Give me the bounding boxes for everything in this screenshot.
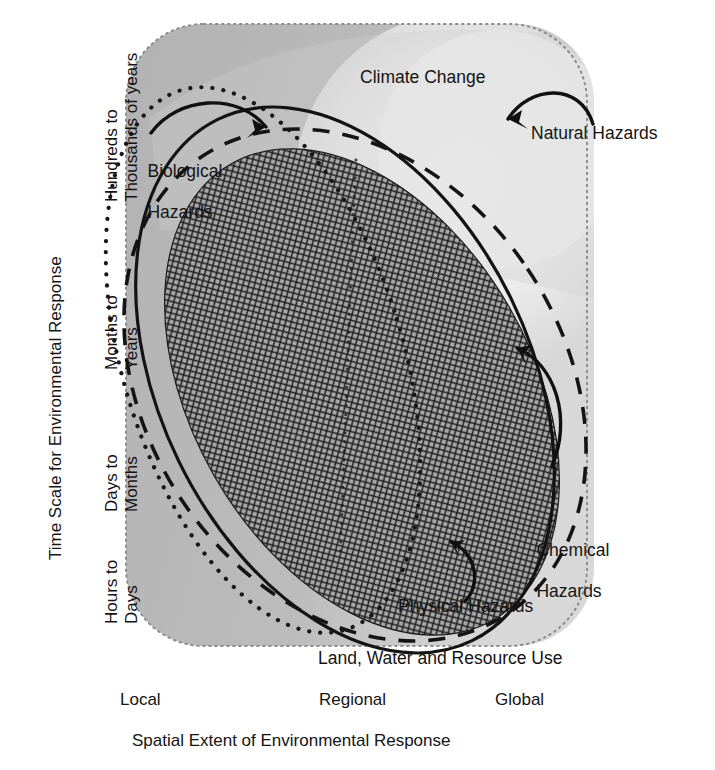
- y-axis-title: Time Scale for Environmental Response: [46, 256, 66, 560]
- chemical-hazards-label-line2: Hazards: [536, 581, 601, 601]
- y-tick-months-to-years: Months to Years: [102, 295, 142, 370]
- natural-hazards-label: Natural Hazards: [531, 123, 657, 144]
- y-tick-days-to-months: Days to Months: [102, 454, 142, 512]
- x-tick-local: Local: [120, 690, 161, 710]
- land-water-resource-label: Land, Water and Resource Use: [318, 648, 562, 669]
- x-axis-title: Spatial Extent of Environmental Response: [132, 731, 450, 751]
- chemical-hazards-label-line1: Chemical: [536, 540, 609, 560]
- biological-hazards-label: Biological Hazards: [128, 140, 222, 243]
- physical-hazards-label: Physical Hazards: [398, 596, 533, 617]
- climate-change-label: Climate Change: [360, 67, 485, 88]
- x-tick-global: Global: [495, 690, 544, 710]
- x-tick-regional: Regional: [319, 690, 386, 710]
- biological-hazards-label-line1: Biological: [147, 161, 222, 181]
- y-tick-hours-to-days: Hours to Days: [102, 560, 142, 624]
- biological-hazards-label-line2: Hazards: [147, 202, 212, 222]
- figure-root: Time Scale for Environmental Response Ho…: [0, 0, 715, 770]
